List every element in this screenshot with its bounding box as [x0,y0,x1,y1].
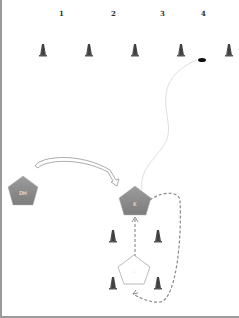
cone-icon-box-4 [154,277,162,290]
player-k: K [119,186,151,215]
cone-icon-top-2 [85,44,93,57]
cone-icon-top-5 [225,44,233,57]
ball-path-line [142,60,197,190]
cone-icon-box-2 [154,230,162,243]
player-dh: DH [8,176,38,205]
cone-icon-top-3 [131,44,139,57]
cone-icon-box-3 [109,277,117,290]
player-label-dh: DH [19,190,27,196]
cone-icon-top-1 [39,44,47,57]
drill-diagram: DH K [0,0,239,318]
cone-icon-top-4 [177,44,185,57]
pass-arrow-icon [35,158,119,187]
cone-icon-box-1 [109,230,117,243]
arrowhead-icon [133,290,138,294]
player-bottom-outline [118,255,150,284]
ball-icon [198,58,206,62]
